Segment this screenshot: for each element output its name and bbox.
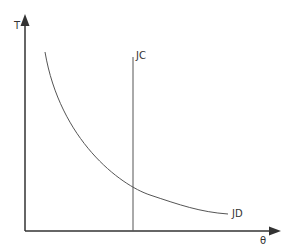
- jd-label: JD: [232, 208, 243, 219]
- diagram-canvas: [0, 0, 297, 249]
- jc-label: JC: [136, 50, 146, 61]
- jd-curve: [45, 52, 228, 214]
- diagram: T θ JC JD: [0, 0, 297, 249]
- x-axis-label: θ: [260, 235, 266, 246]
- y-axis-label: T: [14, 20, 20, 31]
